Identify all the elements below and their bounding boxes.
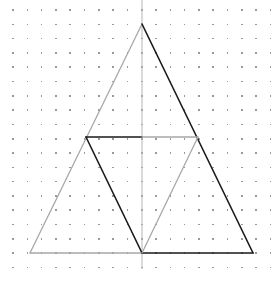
grid-dot (170, 95, 172, 97)
grid-dot (27, 66, 29, 68)
grid-dot (155, 209, 157, 211)
grid-dot (212, 238, 214, 240)
grid-dot (212, 224, 214, 226)
grid-dot (255, 181, 257, 183)
grid-dot (170, 224, 172, 226)
grid-dot (155, 38, 157, 40)
grid-dot (41, 167, 43, 169)
grid-dot (98, 38, 100, 40)
grid-dot (84, 81, 86, 83)
grid-dot (69, 195, 71, 197)
grid-dot (184, 38, 186, 40)
grid-dot (84, 224, 86, 226)
grid-dot (69, 181, 71, 183)
grid-dot (84, 195, 86, 197)
grid-dot (227, 66, 229, 68)
grid-dot (55, 66, 57, 68)
grid-dot (98, 138, 100, 140)
grid-dot (12, 224, 14, 226)
grid-dot (98, 152, 100, 154)
grid-dot (55, 9, 57, 11)
grid-dot (55, 238, 57, 240)
grid-dot (170, 9, 172, 11)
grid-dot (98, 181, 100, 183)
grid-dot (270, 167, 272, 169)
grid-dot (255, 152, 257, 154)
grid-dot (255, 252, 257, 254)
grid-dot (55, 195, 57, 197)
grid-dot (155, 109, 157, 111)
grid-dot (84, 66, 86, 68)
grid-dot (112, 52, 114, 54)
grid-dot (84, 267, 86, 269)
grid-dot (41, 9, 43, 11)
grid-dot (241, 167, 243, 169)
grid-dot (212, 66, 214, 68)
grid-dot (255, 238, 257, 240)
grid-dot (127, 152, 129, 154)
grid-dot (69, 167, 71, 169)
grid-dot (241, 9, 243, 11)
grid-dot (98, 66, 100, 68)
grid-dot (227, 38, 229, 40)
grid-dot (98, 81, 100, 83)
grid-dot (27, 124, 29, 126)
grid-dot (12, 24, 14, 26)
grid-dot (84, 152, 86, 154)
grid-dot (69, 224, 71, 226)
grid-dot (270, 138, 272, 140)
grid-dot (170, 181, 172, 183)
grid-dot (112, 167, 114, 169)
grid-dot (270, 195, 272, 197)
grid-dot (155, 95, 157, 97)
grid-dot (69, 124, 71, 126)
grid-dot (127, 124, 129, 126)
grid-dot (98, 95, 100, 97)
grid-dot (27, 209, 29, 211)
grid-dot (170, 52, 172, 54)
grid-dot (212, 138, 214, 140)
grid-dot (241, 152, 243, 154)
grid-dot (84, 24, 86, 26)
grid-dot (12, 267, 14, 269)
grid-dot (55, 52, 57, 54)
grid-dot (198, 267, 200, 269)
grid-dot (227, 9, 229, 11)
grid-dot (170, 167, 172, 169)
grid-dot (270, 124, 272, 126)
grid-dot (84, 209, 86, 211)
grid-dot (112, 9, 114, 11)
grid-dot (198, 95, 200, 97)
grid-dot (184, 81, 186, 83)
grid-dot (27, 9, 29, 11)
grid-dot (270, 209, 272, 211)
grid-dot (255, 38, 257, 40)
grid-dot (184, 66, 186, 68)
figure-canvas (0, 0, 277, 282)
grid-dot (170, 138, 172, 140)
grid-dot (255, 9, 257, 11)
grid-dot (255, 167, 257, 169)
grid-dot (255, 95, 257, 97)
grid-dot (198, 238, 200, 240)
grid-dot (270, 66, 272, 68)
grid-dot (55, 209, 57, 211)
grid-dot (227, 52, 229, 54)
grid-dot (12, 109, 14, 111)
grid-dot (69, 52, 71, 54)
grid-dot (12, 66, 14, 68)
grid-dot (241, 181, 243, 183)
grid-dot (212, 209, 214, 211)
grid-dot (241, 95, 243, 97)
grid-dot (270, 267, 272, 269)
grid-dot (241, 267, 243, 269)
grid-dot (241, 38, 243, 40)
grid-dot (227, 224, 229, 226)
grid-dot (198, 195, 200, 197)
grid-dot (155, 124, 157, 126)
grid-dot (98, 124, 100, 126)
grid-dot (41, 209, 43, 211)
grid-dot (127, 195, 129, 197)
grid-dot (41, 267, 43, 269)
grid-dot (41, 195, 43, 197)
